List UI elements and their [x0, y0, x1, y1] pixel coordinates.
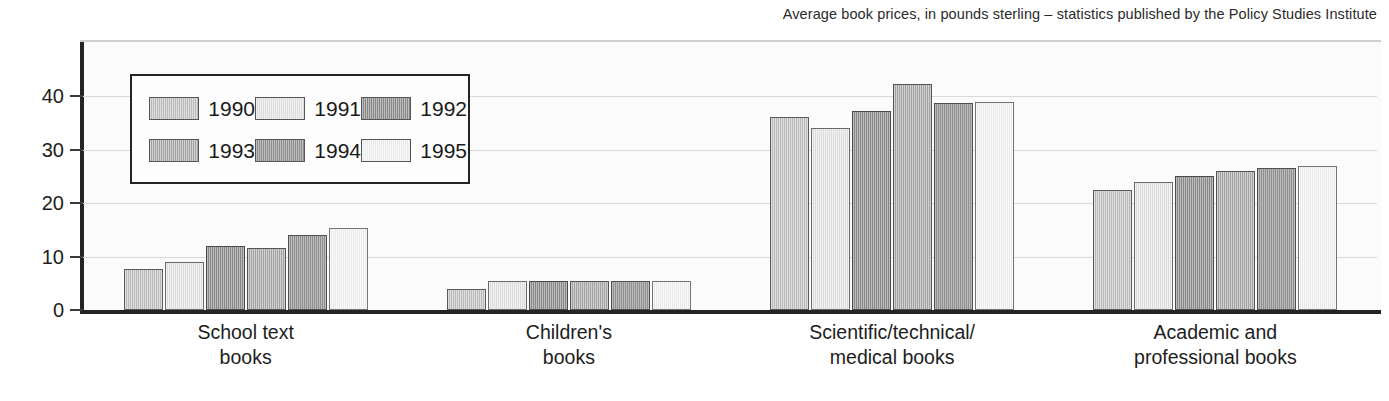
- category-label-4: Academic andprofessional books: [1045, 320, 1385, 370]
- legend-label-1992: 1992: [420, 98, 467, 119]
- legend-swatch-icon-1991: [255, 97, 305, 120]
- y-tick-label-20: 20: [18, 192, 64, 215]
- legend-row: 1990 1991 1992: [149, 87, 468, 129]
- legend-label-1990: 1990: [208, 98, 255, 119]
- bar-1990-group-1[interactable]: [124, 269, 163, 310]
- y-tick-label-10: 10: [18, 245, 64, 268]
- y-tick-mark-40: [70, 95, 83, 97]
- category-label-3: Scientific/technical/medical books: [722, 320, 1062, 370]
- category-label-line: medical books: [722, 345, 1062, 370]
- legend-label-1991: 1991: [314, 98, 361, 119]
- bar-1991-group-2[interactable]: [488, 281, 527, 310]
- bar-1990-group-2[interactable]: [447, 289, 486, 310]
- category-label-line: professional books: [1045, 345, 1385, 370]
- category-label-line: books: [399, 345, 739, 370]
- bar-1992-group-4[interactable]: [1175, 176, 1214, 310]
- bar-1993-group-4[interactable]: [1216, 171, 1255, 310]
- y-tick-label-40: 40: [18, 85, 64, 108]
- bar-1992-group-1[interactable]: [206, 246, 245, 310]
- y-tick-mark-10: [70, 256, 83, 258]
- y-tick-mark-20: [70, 202, 83, 204]
- bar-1993-group-1[interactable]: [247, 248, 286, 310]
- legend-item-1990[interactable]: 1990: [149, 97, 255, 120]
- y-tick-mark-0: [70, 309, 83, 311]
- legend-swatch-icon-1994: [255, 139, 305, 162]
- y-tick-label-0: 0: [18, 299, 64, 322]
- bar-1995-group-3[interactable]: [975, 102, 1014, 310]
- bar-1993-group-3[interactable]: [893, 84, 932, 310]
- legend-item-1993[interactable]: 1993: [149, 139, 255, 162]
- category-label-2: Children'sbooks: [399, 320, 739, 370]
- bar-1991-group-3[interactable]: [811, 128, 850, 310]
- bar-1995-group-2[interactable]: [652, 281, 691, 310]
- bar-1994-group-3[interactable]: [934, 103, 973, 310]
- bar-1991-group-4[interactable]: [1134, 182, 1173, 310]
- legend-item-1995[interactable]: 1995: [361, 139, 467, 162]
- bar-1990-group-4[interactable]: [1093, 190, 1132, 310]
- bar-1993-group-2[interactable]: [570, 281, 609, 310]
- category-label-line: Academic and: [1045, 320, 1385, 345]
- legend-swatch-icon-1990: [149, 97, 199, 120]
- category-label-line: books: [76, 345, 416, 370]
- legend-label-1994: 1994: [314, 140, 361, 161]
- bar-1990-group-3[interactable]: [770, 117, 809, 310]
- legend-item-1992[interactable]: 1992: [361, 97, 467, 120]
- chart-title: Average book prices, in pounds sterling …: [0, 6, 1377, 22]
- bar-1994-group-2[interactable]: [611, 281, 650, 310]
- category-label-line: Children's: [399, 320, 739, 345]
- legend-row: 1993 1994 1995: [149, 129, 468, 171]
- legend-swatch-icon-1995: [361, 139, 411, 162]
- bar-1994-group-4[interactable]: [1257, 168, 1296, 310]
- legend-label-1995: 1995: [420, 140, 467, 161]
- legend-label-1993: 1993: [208, 140, 255, 161]
- legend-item-1991[interactable]: 1991: [255, 97, 361, 120]
- bar-1992-group-2[interactable]: [529, 281, 568, 310]
- bar-1994-group-1[interactable]: [288, 235, 327, 310]
- y-tick-mark-30: [70, 149, 83, 151]
- legend-swatch-icon-1993: [149, 139, 199, 162]
- category-label-line: School text: [76, 320, 416, 345]
- legend-swatch-icon-1992: [361, 97, 411, 120]
- category-label-line: Scientific/technical/: [722, 320, 1062, 345]
- bar-1995-group-4[interactable]: [1298, 166, 1337, 310]
- legend-item-1994[interactable]: 1994: [255, 139, 361, 162]
- bar-1991-group-1[interactable]: [165, 262, 204, 310]
- legend: 1990 1991 1992 1993 1994 1995: [130, 74, 470, 184]
- bar-1992-group-3[interactable]: [852, 111, 891, 310]
- bar-1995-group-1[interactable]: [329, 228, 368, 310]
- y-tick-label-30: 30: [18, 138, 64, 161]
- category-label-1: School textbooks: [76, 320, 416, 370]
